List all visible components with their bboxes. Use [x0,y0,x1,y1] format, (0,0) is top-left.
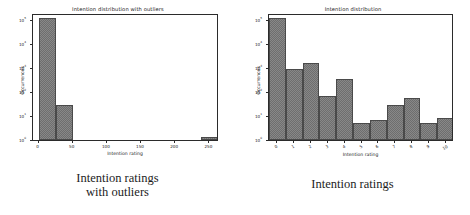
x-tick-label-right-0: 0 [268,141,284,153]
bar-left-outlier [201,137,217,140]
panel-left: Intention distribution with outliers Occ… [0,0,235,215]
bar-right-8 [404,98,421,140]
caption-left: Intention ratings with outliers [0,172,235,199]
x-tick-label-right-2: 2 [302,141,318,153]
plot-area-right [268,14,453,141]
y-tick-label-right-4: 104 [248,42,262,47]
x-tick-label-left-250: 250 [198,144,218,149]
x-tick-label-left-100: 100 [96,144,116,149]
bar-right-1 [286,69,303,140]
x-tick-label-left-200: 200 [164,144,184,149]
caption-right-line1: Intention ratings [235,178,470,192]
y-tick-label-right-5: 105 [248,18,262,23]
bar-right-3 [319,96,336,140]
x-tick-label-right-8: 8 [403,141,419,153]
x-tick-label-right-6: 6 [369,141,385,153]
bars-left [33,15,217,140]
x-axis-title-left: Intention rating [32,151,218,156]
x-tick-mark-left-100 [106,141,107,143]
bar-right-10 [437,118,453,140]
bar-right-0 [269,18,286,140]
bar-right-4 [336,79,353,140]
y-tick-label-left-3: 103 [12,66,26,71]
x-tick-mark-left-150 [140,141,141,143]
y-tick-label-left-2: 102 [12,90,26,95]
y-tick-label-left-5: 105 [12,18,26,23]
caption-left-line2: with outliers [0,186,235,200]
y-tick-label-right-0: 100 [248,138,262,143]
bar-left-1 [56,105,73,140]
x-tick-label-right-1: 1 [285,141,301,153]
bar-right-5 [353,123,370,140]
panel-right: Intention distribution Occurrences 105 1… [235,0,470,215]
chart-title-left: Intention distribution with outliers [18,6,218,12]
x-tick-label-right-4: 4 [335,141,351,153]
x-tick-mark-left-200 [174,141,175,143]
x-tick-mark-left-0 [38,141,39,143]
y-tick-label-right-2: 102 [248,90,262,95]
bar-right-7 [387,105,404,140]
caption-left-line1: Intention ratings [0,172,235,186]
x-tick-label-left-0: 0 [28,144,48,149]
y-tick-label-right-3: 103 [248,66,262,71]
caption-right: Intention ratings [235,178,470,192]
y-tick-label-left-1: 101 [12,114,26,119]
bar-right-2 [303,63,320,140]
x-tick-label-left-150: 150 [130,144,150,149]
x-axis-title-right: Intention rating [268,152,453,157]
y-tick-label-right-1: 101 [248,114,262,119]
figure-two-panel: Intention distribution with outliers Occ… [0,0,470,215]
bar-right-6 [370,120,387,140]
x-tick-label-right-3: 3 [319,141,335,153]
chart-title-right: Intention distribution [253,6,453,12]
y-axis-title-right: Occurrences [256,51,261,111]
y-axis-title-left: Occurrences [20,51,25,111]
x-tick-mark-left-250 [208,141,209,143]
x-tick-label-right-9: 9 [420,141,436,153]
y-tick-label-left-0: 100 [12,138,26,143]
bars-right [269,15,452,140]
bar-left-0 [39,18,56,140]
plot-area-left [32,14,218,141]
x-tick-mark-right-10 [445,141,446,143]
x-tick-mark-left-50 [72,141,73,143]
x-tick-label-right-7: 7 [386,141,402,153]
y-tick-label-left-4: 104 [12,42,26,47]
bar-right-9 [420,123,437,140]
x-tick-label-left-50: 50 [62,144,82,149]
